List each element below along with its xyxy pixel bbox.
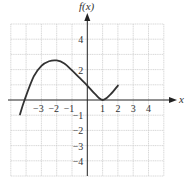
y-axis-label: f(x) xyxy=(79,0,95,13)
y-axis-arrow-icon xyxy=(84,13,90,21)
y-tick-label: −4 xyxy=(73,156,84,167)
y-tick-label: 2 xyxy=(78,65,83,76)
axes xyxy=(8,13,177,176)
x-axis-arrow-icon xyxy=(169,97,177,103)
x-axis-label: x xyxy=(178,93,184,105)
x-tick-label: 2 xyxy=(115,103,120,114)
y-tick-label: −2 xyxy=(73,125,84,136)
function-graph: −3−2−1123442−1−2−3−4 f(x) x xyxy=(0,0,186,185)
x-tick-label: 4 xyxy=(146,103,151,114)
y-tick-label: 4 xyxy=(78,34,83,45)
y-tick-label: −1 xyxy=(73,110,84,121)
y-tick-label: −3 xyxy=(73,141,84,152)
x-tick-label: −3 xyxy=(33,103,44,114)
x-tick-label: 1 xyxy=(100,103,105,114)
x-tick-label: 3 xyxy=(131,103,136,114)
x-tick-label: −2 xyxy=(48,103,59,114)
